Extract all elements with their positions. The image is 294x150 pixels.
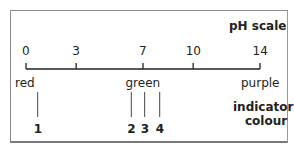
colour-label-green: green	[126, 76, 161, 90]
tick-label: 3	[72, 44, 80, 58]
indicator-number-4: 4	[156, 122, 164, 136]
tick-label: 0	[22, 44, 30, 58]
indicator-label-line1: indicator	[233, 100, 293, 114]
indicator-number-1: 1	[34, 122, 42, 136]
tick-label: 14	[253, 44, 268, 58]
colour-label-red: red	[15, 76, 35, 90]
indicator-number-3: 3	[141, 122, 149, 136]
colour-label-purple: purple	[241, 76, 280, 90]
indicator-label-line2: colour	[245, 114, 287, 128]
tick-label: 10	[186, 44, 201, 58]
indicator-number-2: 2	[127, 122, 135, 136]
tick-label: 7	[139, 44, 147, 58]
